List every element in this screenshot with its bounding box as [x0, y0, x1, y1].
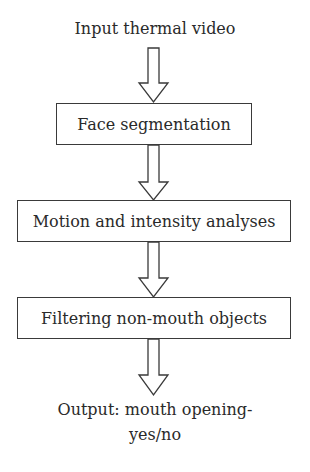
step-label: Motion and intensity analyses — [33, 212, 276, 231]
down-arrow-icon — [139, 242, 168, 297]
down-arrow-icon — [139, 145, 168, 200]
output-label-line2: yes/no — [0, 425, 310, 445]
step-motion-intensity-analyses: Motion and intensity analyses — [17, 200, 291, 242]
down-arrow-icon — [139, 339, 168, 395]
step-label: Filtering non-mouth objects — [41, 309, 267, 328]
step-label: Face segmentation — [77, 115, 230, 134]
step-filtering-non-mouth-objects: Filtering non-mouth objects — [17, 297, 291, 339]
down-arrow-icon — [139, 48, 168, 102]
step-face-segmentation: Face segmentation — [56, 103, 252, 145]
output-label-line1: Output: mouth opening- — [0, 400, 310, 420]
